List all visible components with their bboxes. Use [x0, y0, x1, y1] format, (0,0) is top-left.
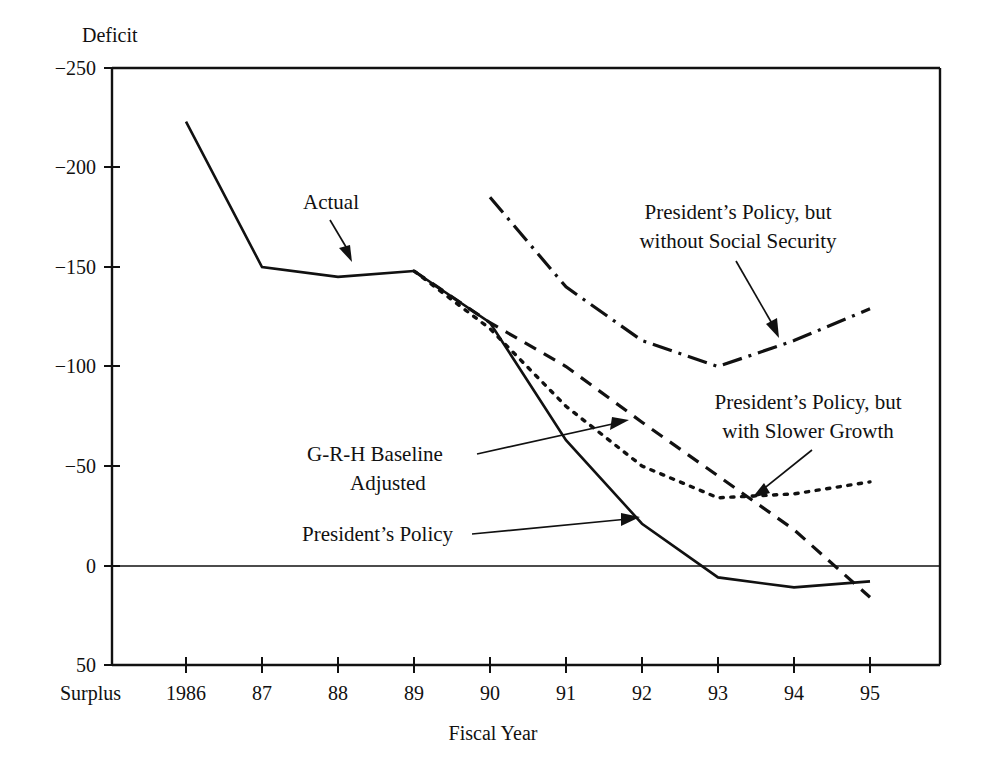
- y-tick-label-minus100: −100: [55, 355, 96, 377]
- x-tick-label-93: 93: [708, 682, 728, 704]
- x-tick-label-87: 87: [252, 682, 272, 704]
- y-axis-title: Deficit: [82, 24, 138, 46]
- x-tick-label-94: 94: [784, 682, 804, 704]
- chart-svg: Deficit −250 −200 −150 −100 −50 0 50: [0, 0, 987, 771]
- annotation-slower-growth-line-1: President’s Policy, but: [714, 390, 901, 414]
- annotation-grh-line-2: Adjusted: [350, 471, 426, 495]
- x-tick-label-1986: 1986: [166, 682, 206, 704]
- x-tick-label-90: 90: [480, 682, 500, 704]
- y-tick-label-50: 50: [76, 654, 96, 676]
- annotation-no-ss-line-1: President’s Policy, but: [644, 200, 831, 224]
- annotation-slower-growth-line-2: with Slower Growth: [722, 419, 894, 443]
- x-tick-label-89: 89: [404, 682, 424, 704]
- x-tick-label-88: 88: [328, 682, 348, 704]
- y-tick-label-minus200: −200: [55, 156, 96, 178]
- deficit-projection-chart: Deficit −250 −200 −150 −100 −50 0 50: [0, 0, 987, 771]
- x-axis-surplus-label: Surplus: [60, 682, 121, 705]
- annotation-president-policy-line-1: President’s Policy: [302, 522, 454, 546]
- y-tick-label-minus250: −250: [55, 57, 96, 79]
- annotation-actual-line-1: Actual: [303, 190, 359, 214]
- x-axis-title: Fiscal Year: [449, 722, 538, 744]
- y-tick-label-zero: 0: [86, 555, 96, 577]
- x-tick-label-95: 95: [860, 682, 880, 704]
- annotation-grh-line-1: G-R-H Baseline: [307, 442, 443, 466]
- annotation-no-ss-line-2: without Social Security: [639, 229, 837, 253]
- y-tick-label-minus50: −50: [65, 455, 96, 477]
- y-tick-label-minus150: −150: [55, 256, 96, 278]
- x-tick-label-91: 91: [556, 682, 576, 704]
- chart-background: [0, 0, 987, 771]
- x-tick-label-92: 92: [632, 682, 652, 704]
